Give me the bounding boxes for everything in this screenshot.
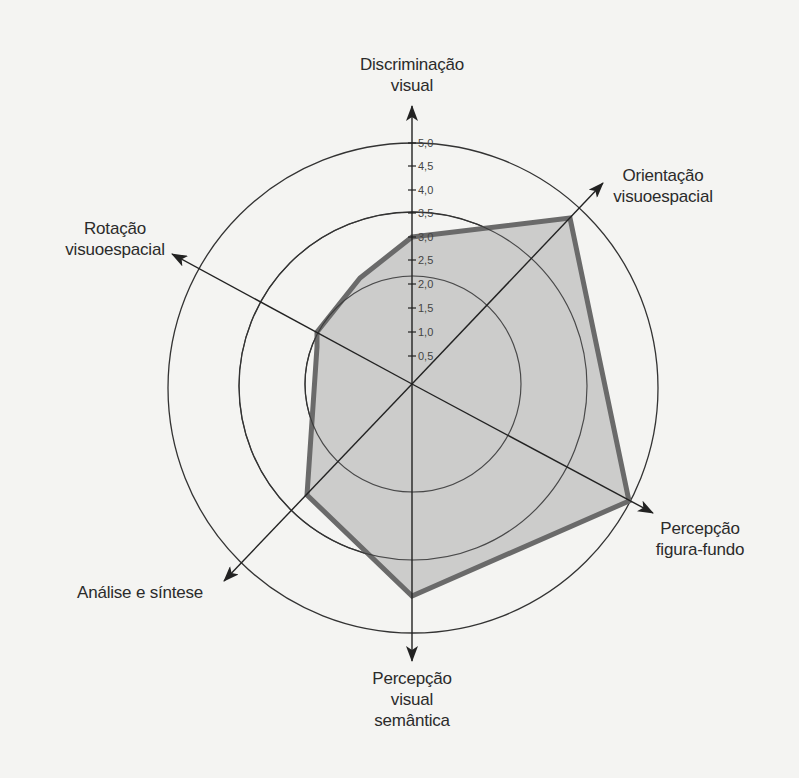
label-line: visuoespacial bbox=[598, 186, 728, 207]
tick-4-5: 4,5 bbox=[418, 160, 433, 172]
tick-3-5: 3,5 bbox=[418, 207, 433, 219]
tick-5-0: 5,0 bbox=[418, 137, 433, 149]
radar-chart: 5,0 4,5 4,0 3,5 3,0 2,5 2,0 1,5 1,0 0,5 bbox=[0, 0, 799, 778]
label-line: visuoespacial bbox=[55, 239, 175, 260]
label-line: Análise e síntese bbox=[77, 582, 227, 603]
data-polygon bbox=[307, 218, 629, 596]
label-line: Orientação bbox=[598, 165, 728, 186]
label-line: semântica bbox=[352, 710, 472, 731]
label-orientacao-visuoespacial: Orientação visuoespacial bbox=[598, 165, 728, 207]
tick-4-0: 4,0 bbox=[418, 184, 433, 196]
label-rotacao-visuoespacial: Rotação visuoespacial bbox=[55, 218, 175, 260]
label-line: figura-fundo bbox=[640, 539, 760, 560]
tick-1-0: 1,0 bbox=[418, 326, 433, 338]
label-line: visual bbox=[332, 75, 492, 96]
tick-2-0: 2,0 bbox=[418, 278, 433, 290]
label-discriminacao-visual: Discriminação visual bbox=[332, 54, 492, 96]
tick-2-5: 2,5 bbox=[418, 254, 433, 266]
label-line: Percepção bbox=[640, 518, 760, 539]
label-line: visual bbox=[352, 689, 472, 710]
label-line: Rotação bbox=[55, 218, 175, 239]
label-line: Discriminação bbox=[332, 54, 492, 75]
label-line: Percepção bbox=[352, 668, 472, 689]
label-percepcao-figura-fundo: Percepção figura-fundo bbox=[640, 518, 760, 560]
tick-0-5: 0,5 bbox=[418, 350, 433, 362]
tick-3-0: 3,0 bbox=[418, 231, 433, 243]
tick-1-5: 1,5 bbox=[418, 302, 433, 314]
label-analise-sintese: Análise e síntese bbox=[77, 582, 227, 603]
label-percepcao-visual-semantica: Percepção visual semântica bbox=[352, 668, 472, 731]
